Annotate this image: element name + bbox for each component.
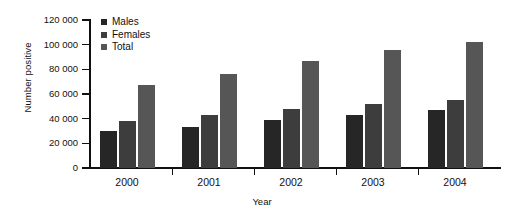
y-tick-mark (82, 93, 90, 94)
bar-chart-figure: Number positive 020 00040 00060 00080 00… (0, 0, 524, 214)
y-tick-mark (82, 167, 90, 168)
chart-legend: MalesFemalesTotal (101, 16, 150, 54)
legend-item-males: Males (101, 16, 150, 29)
bar-total-2001 (220, 74, 237, 168)
y-tick-mark (82, 44, 90, 45)
legend-label: Females (112, 30, 150, 40)
x-tick-label: 2003 (361, 177, 384, 188)
x-tick-label: 2001 (197, 177, 220, 188)
y-tick-label: 40 000 (20, 114, 78, 124)
x-tick-mark (254, 169, 255, 175)
y-tick-label: 20 000 (20, 139, 78, 149)
bar-females-2003 (365, 104, 382, 168)
bar-males-2000 (100, 131, 117, 168)
y-tick-label: 100 000 (20, 40, 78, 50)
x-tick-mark (336, 169, 337, 175)
y-tick-mark (82, 118, 90, 119)
y-tick-label: 80 000 (20, 65, 78, 75)
bar-males-2001 (182, 127, 199, 168)
y-tick-label: 120 000 (20, 15, 78, 25)
x-tick-mark (418, 169, 419, 175)
y-tick-label: 0 (20, 163, 78, 173)
legend-item-total: Total (101, 41, 150, 54)
bar-females-2001 (201, 115, 218, 168)
bar-total-2003 (384, 50, 401, 168)
y-tick-mark (82, 19, 90, 20)
legend-swatch-icon (101, 19, 107, 25)
legend-label: Total (112, 42, 133, 52)
legend-label: Males (112, 17, 139, 27)
y-tick-mark (82, 143, 90, 144)
y-tick-label: 60 000 (20, 89, 78, 99)
bar-males-2003 (346, 115, 363, 168)
plot-area (90, 20, 500, 168)
x-tick-mark (172, 169, 173, 175)
bar-females-2002 (283, 109, 300, 168)
bar-females-2000 (119, 121, 136, 168)
x-tick-label: 2000 (115, 177, 138, 188)
bar-total-2004 (466, 42, 483, 168)
legend-swatch-icon (101, 32, 107, 38)
bar-females-2004 (447, 100, 464, 168)
bar-total-2000 (138, 85, 155, 168)
legend-item-females: Females (101, 29, 150, 42)
legend-swatch-icon (101, 44, 107, 50)
y-tick-mark (82, 69, 90, 70)
x-axis-title: Year (0, 196, 524, 207)
bar-males-2002 (264, 120, 281, 168)
x-tick-label: 2002 (279, 177, 302, 188)
x-tick-label: 2004 (443, 177, 466, 188)
bar-males-2004 (428, 110, 445, 168)
bar-total-2002 (302, 61, 319, 168)
